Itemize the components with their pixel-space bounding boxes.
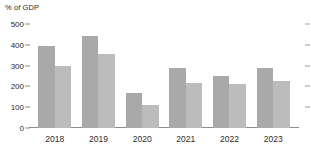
plot-area: 0100200300400500201820192020202120222023: [33, 24, 295, 128]
bar: [55, 66, 72, 128]
bar: [257, 68, 274, 128]
right-axis-tick-mark: [305, 24, 310, 25]
bar-group: 2019: [77, 24, 121, 128]
y-axis-tick-label: 400: [11, 40, 24, 49]
bar: [142, 105, 159, 129]
y-axis-tick-label: 300: [11, 61, 24, 70]
bar-group: 2021: [164, 24, 208, 128]
right-axis-tick-mark: [305, 107, 310, 108]
y-axis-title: % of GDP: [5, 3, 39, 12]
x-axis-tick-label: 2019: [89, 134, 108, 144]
right-axis-tick-mark: [305, 44, 310, 45]
y-axis-tick-mark: [25, 128, 30, 129]
bar: [126, 93, 143, 128]
x-axis-tick-label: 2023: [264, 134, 283, 144]
bar: [38, 46, 55, 128]
y-axis-tick-mark: [25, 65, 30, 66]
y-axis-tick-label: 100: [11, 103, 24, 112]
bar-group: 2023: [251, 24, 295, 128]
x-axis-tick-label: 2022: [220, 134, 239, 144]
y-axis-tick-mark: [25, 107, 30, 108]
right-axis-tick-mark: [305, 86, 310, 87]
y-axis-tick-mark: [25, 24, 30, 25]
bar-group: 2018: [33, 24, 77, 128]
bar-group: 2022: [208, 24, 252, 128]
bar: [82, 36, 99, 128]
bar: [213, 76, 230, 128]
bar-chart: % of GDP 0100200300400500201820192020202…: [0, 0, 311, 149]
bar: [98, 54, 115, 128]
bar: [186, 83, 203, 128]
y-axis-tick-label: 500: [11, 20, 24, 29]
y-axis-tick-label: 0: [20, 124, 24, 133]
x-axis-tick-label: 2020: [133, 134, 152, 144]
bar: [169, 68, 186, 128]
bar: [229, 84, 246, 128]
y-axis-tick-mark: [25, 86, 30, 87]
x-axis-tick-label: 2021: [176, 134, 195, 144]
right-axis-tick-mark: [305, 65, 310, 66]
bar-group: 2020: [120, 24, 164, 128]
bar: [273, 81, 290, 128]
y-axis-tick-mark: [25, 44, 30, 45]
x-axis-tick-label: 2018: [45, 134, 64, 144]
y-axis-tick-label: 200: [11, 82, 24, 91]
